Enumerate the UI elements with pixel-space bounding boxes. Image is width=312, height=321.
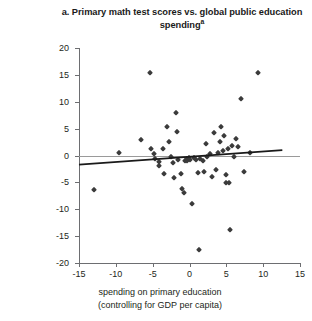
y-tick-label: -15 [56,231,69,241]
scatter-point [201,169,207,175]
scatter-point [147,70,153,76]
scatter-point [255,70,261,76]
scatter-point [213,167,219,173]
scatter-point [161,171,167,177]
y-tick-label: 10 [59,97,69,107]
scatter-point [156,163,162,169]
scatter-point [208,174,214,180]
scatter-point [233,136,239,142]
scatter-point [211,130,217,136]
scatter-point [241,169,247,175]
x-tick [190,263,191,267]
x-tick [226,263,227,267]
scatter-point [217,138,223,144]
x-axis-title: spending on primary education (controlli… [38,286,282,311]
scatter-point [220,148,226,154]
y-tick: 5 [75,129,79,130]
chart-title: a. Primary math test scores vs. global p… [58,6,306,31]
scatter-point [171,175,177,181]
scatter-point [169,160,175,166]
x-tick-label: 0 [187,269,192,279]
scatter-point [221,133,227,139]
x-tick [300,263,301,267]
scatter-point [166,139,172,145]
plot-area: -20-15-10-505101520 -15-10-5051015 [79,48,300,263]
y-tick: -10 [75,209,79,210]
chart-figure: a. Primary math test scores vs. global p… [0,0,312,321]
scatter-point [160,146,166,152]
scatter-point [172,109,178,115]
x-axis-title-line1: spending on primary education [98,287,221,297]
scatter-point [180,190,186,196]
scatter-point [222,172,228,178]
scatter-point [203,141,209,147]
x-tick [153,263,154,267]
y-tick: -5 [75,182,79,183]
scatter-point [138,137,144,143]
y-tick-label: -5 [61,177,69,187]
scatter-point [174,129,180,135]
y-tick-label: 20 [59,43,69,53]
scatter-point [231,153,237,159]
scatter-point [91,187,97,193]
scatter-point [178,171,184,177]
y-tick-label: -20 [56,258,69,268]
scatter-point [164,124,170,130]
y-tick: 20 [75,48,79,49]
scatter-point [238,96,244,102]
chart-title-text: a. Primary math test scores vs. global p… [62,7,303,30]
x-tick [79,263,80,267]
y-tick: 0 [75,156,79,157]
scatter-point [218,124,224,130]
y-tick: -15 [75,236,79,237]
y-tick-label: -10 [56,204,69,214]
x-tick [116,263,117,267]
y-tick-label: 15 [59,70,69,80]
y-tick-label: 0 [64,151,69,161]
scatter-point [227,227,233,233]
scatter-point [194,170,200,176]
scatter-point [189,201,195,207]
x-tick [263,263,264,267]
chart-title-footnote-marker: a [201,17,205,24]
scatter-point [200,158,206,164]
x-tick-label: -10 [109,269,122,279]
x-tick-label: 5 [224,269,229,279]
y-tick: 10 [75,102,79,103]
scatter-point [196,246,202,252]
scatter-point [226,180,232,186]
y-tick-label: 5 [64,124,69,134]
x-tick-label: -5 [149,269,157,279]
x-tick-label: 15 [295,269,305,279]
scatter-point [235,144,241,150]
x-axis-title-line2: (controlling for GDP per capita) [98,300,222,310]
scatter-point [175,157,181,163]
y-tick: 15 [75,75,79,76]
x-tick-label: -15 [72,269,85,279]
x-tick-label: 10 [258,269,268,279]
